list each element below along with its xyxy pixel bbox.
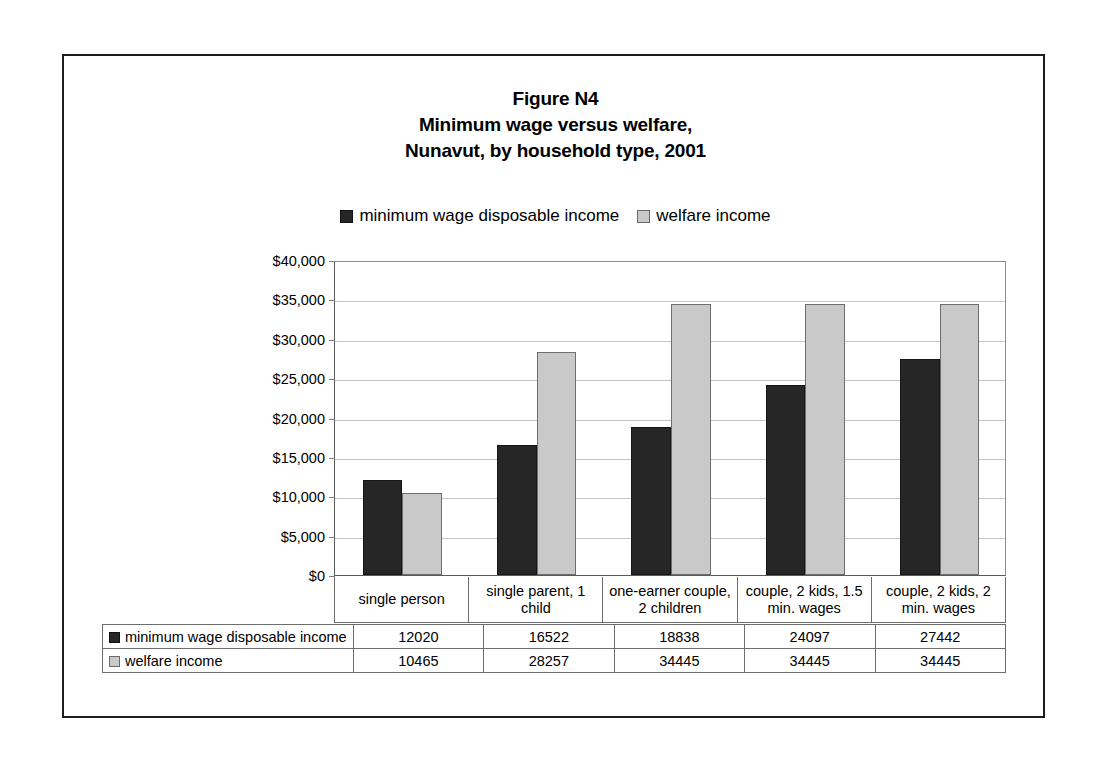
category-label-1: single parent, 1 child [469,577,603,622]
bar-1-3[interactable] [805,304,845,575]
table-swatch-icon-1 [109,656,120,667]
category-label-0: single person [335,577,469,622]
bar-group [469,262,603,575]
bar-1-1[interactable] [537,352,577,575]
y-axis-tick-mark [329,419,335,420]
y-axis-tick-mark [329,340,335,341]
y-axis-tick-label: $10,000 [235,489,325,505]
y-axis-tick-label: $25,000 [235,371,325,387]
table-cell-0-3: 24097 [745,625,875,649]
category-label-4: couple, 2 kids, 2 min. wages [872,577,1005,622]
title-line-1: Figure N4 [64,86,1047,112]
bar-group [873,262,1007,575]
table-cell-1-1: 28257 [484,649,614,673]
plot-wrapper: $0$5,000$10,000$15,000$20,000$25,000$30,… [334,261,1006,576]
figure-frame: Figure N4 Minimum wage versus welfare, N… [62,54,1045,718]
y-axis-tick-mark [329,458,335,459]
y-axis-tick-mark [329,261,335,262]
bar-0-1[interactable] [497,445,537,575]
y-axis-tick-label: $35,000 [235,292,325,308]
y-axis-tick-mark [329,497,335,498]
table-cell-1-3: 34445 [745,649,875,673]
legend-label-minimum-wage: minimum wage disposable income [359,206,619,226]
bar-0-0[interactable] [363,480,403,575]
chart-legend: minimum wage disposable income welfare i… [64,206,1047,226]
legend-label-welfare: welfare income [656,206,770,226]
y-axis-tick-mark [329,379,335,380]
bar-0-3[interactable] [766,385,806,575]
table-cell-1-2: 34445 [614,649,744,673]
legend-item-minimum-wage[interactable]: minimum wage disposable income [340,206,619,226]
y-axis-tick-mark [329,300,335,301]
bar-0-4[interactable] [900,359,940,575]
legend-swatch-icon-welfare [637,210,650,223]
table-row-header-1: welfare income [103,649,354,673]
y-axis-tick-label: $15,000 [235,450,325,466]
bar-group [738,262,872,575]
category-axis-row: single personsingle parent, 1 childone-e… [334,577,1006,623]
table-swatch-icon-0 [109,632,120,643]
table-row-label-1: welfare income [125,653,223,669]
bar-group [335,262,469,575]
data-table: minimum wage disposable income1202016522… [102,624,1006,673]
plot-area [334,261,1006,576]
table-cell-1-0: 10465 [353,649,483,673]
page-title: Figure N4 Minimum wage versus welfare, N… [64,86,1047,164]
y-axis-tick-label: $40,000 [235,253,325,269]
table-cell-0-1: 16522 [484,625,614,649]
y-axis-tick-label: $5,000 [235,529,325,545]
bar-0-2[interactable] [631,427,671,575]
category-label-3: couple, 2 kids, 1.5 min. wages [738,577,872,622]
bar-1-2[interactable] [671,304,711,575]
bar-1-0[interactable] [402,493,442,575]
table-row: welfare income1046528257344453444534445 [103,649,1006,673]
bar-1-4[interactable] [940,304,980,575]
table-cell-0-2: 18838 [614,625,744,649]
title-line-2: Minimum wage versus welfare, [64,112,1047,138]
y-axis-tick-label: $20,000 [235,411,325,427]
category-label-2: one-earner couple, 2 children [603,577,737,622]
table-row: minimum wage disposable income1202016522… [103,625,1006,649]
bar-group [604,262,738,575]
table-row-header-0: minimum wage disposable income [103,625,354,649]
y-axis-tick-label: $0 [235,568,325,584]
table-row-label-0: minimum wage disposable income [125,629,347,645]
table-cell-0-4: 27442 [875,625,1005,649]
table-cell-1-4: 34445 [875,649,1005,673]
data-table-body: minimum wage disposable income1202016522… [103,625,1006,673]
legend-item-welfare[interactable]: welfare income [637,206,770,226]
y-axis-tick-mark [329,537,335,538]
title-line-3: Nunavut, by household type, 2001 [64,138,1047,164]
y-axis-tick-label: $30,000 [235,332,325,348]
legend-swatch-icon-minimum-wage [340,210,353,223]
table-cell-0-0: 12020 [353,625,483,649]
